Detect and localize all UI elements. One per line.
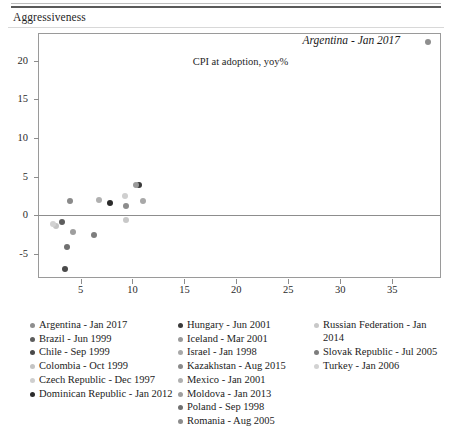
legend-item[interactable]: Hungary - Jun 2001 — [178, 318, 314, 331]
legend-marker-icon — [178, 364, 183, 369]
legend-item[interactable]: Colombia - Oct 1999 — [30, 359, 178, 372]
legend-item-label: Turkey - Jan 2006 — [323, 359, 399, 372]
scatter-point — [122, 193, 128, 199]
x-tick-label: 5 — [61, 285, 101, 296]
page-title: Aggressiveness — [13, 11, 86, 23]
legend-item-label: Slovak Republic - Jul 2005 — [323, 345, 437, 358]
legend-item-label: Argentina - Jan 2017 — [39, 318, 127, 331]
legend-item-label: Czech Republic - Dec 1997 — [39, 373, 155, 386]
legend-item-label: Mexico - Jan 2001 — [187, 373, 265, 386]
scatter-point — [59, 219, 65, 225]
chart-legend: Argentina - Jan 2017Brazil - Jun 1999Chi… — [30, 318, 448, 430]
legend-marker-icon — [30, 337, 35, 342]
legend-item-label: Poland - Sep 1998 — [187, 400, 264, 413]
legend-marker-icon — [314, 364, 319, 369]
x-tick-label: 35 — [372, 285, 412, 296]
legend-item-label: Iceland - Mar 2001 — [187, 332, 268, 345]
y-tick — [34, 99, 39, 100]
scatter-point — [91, 232, 97, 238]
scatter-point — [140, 198, 146, 204]
scatter-point — [62, 266, 68, 272]
legend-marker-icon — [178, 323, 183, 328]
legend-item[interactable]: Israel - Jan 1998 — [178, 345, 314, 358]
scatter-point — [107, 200, 113, 206]
legend-item-label: Moldova - Jan 2013 — [187, 387, 271, 400]
legend-item[interactable]: Czech Republic - Dec 1997 — [30, 373, 178, 386]
legend-marker-icon — [178, 419, 183, 424]
point-annotation-label: Argentina - Jan 2017 — [302, 34, 400, 46]
legend-item[interactable]: Turkey - Jan 2006 — [314, 359, 448, 372]
y-tick — [34, 254, 39, 255]
legend-item[interactable]: Chile - Sep 1999 — [30, 345, 178, 358]
legend-item[interactable]: Iceland - Mar 2001 — [178, 332, 314, 345]
scatter-point — [133, 182, 139, 188]
legend-column: Argentina - Jan 2017Brazil - Jun 1999Chi… — [30, 318, 178, 430]
legend-item-label: Hungary - Jun 2001 — [187, 318, 271, 331]
scatter-point — [96, 197, 102, 203]
legend-item[interactable]: Kazakhstan - Aug 2015 — [178, 359, 314, 372]
legend-marker-icon — [30, 364, 35, 369]
legend-marker-icon — [30, 323, 35, 328]
legend-marker-icon — [178, 392, 183, 397]
legend-item[interactable]: Argentina - Jan 2017 — [30, 318, 178, 331]
legend-marker-icon — [30, 392, 35, 397]
legend-item-label: Russian Federation - Jan 2014 — [323, 318, 448, 344]
scatter-point — [70, 229, 76, 235]
x-tick-label: 15 — [164, 285, 204, 296]
legend-marker-icon — [178, 378, 183, 383]
y-tick-label: -5 — [2, 249, 28, 260]
plot-area: -505101520 5101520253035 Argentina - Jan… — [38, 33, 441, 278]
legend-item-label: Brazil - Jun 1999 — [39, 332, 112, 345]
x-axis-title: CPI at adoption, yoy% — [39, 56, 442, 67]
y-tick-label: 5 — [2, 172, 28, 183]
legend-column: Russian Federation - Jan 2014Slovak Repu… — [314, 318, 448, 430]
y-tick-label: 0 — [2, 210, 28, 221]
scatter-point — [123, 203, 129, 209]
zero-reference-line — [39, 215, 440, 216]
top-rule — [11, 6, 441, 8]
legend-marker-icon — [178, 337, 183, 342]
legend-column: Hungary - Jun 2001Iceland - Mar 2001Isra… — [178, 318, 314, 430]
legend-item-label: Kazakhstan - Aug 2015 — [187, 359, 286, 372]
legend-item[interactable]: Romania - Aug 2005 — [178, 414, 314, 427]
legend-item[interactable]: Brazil - Jun 1999 — [30, 332, 178, 345]
scatter-point — [50, 221, 56, 227]
legend-marker-icon — [30, 350, 35, 355]
x-tick-label: 20 — [216, 285, 256, 296]
scatter-point — [64, 244, 70, 250]
legend-marker-icon — [30, 378, 35, 383]
y-tick-label: 20 — [2, 56, 28, 67]
legend-item[interactable]: Mexico - Jan 2001 — [178, 373, 314, 386]
scatter-point — [123, 217, 129, 223]
legend-item[interactable]: Slovak Republic - Jul 2005 — [314, 345, 448, 358]
legend-marker-icon — [178, 350, 183, 355]
y-tick — [34, 138, 39, 139]
x-tick-label: 25 — [268, 285, 308, 296]
chart-page: Aggressiveness -505101520 5101520253035 … — [0, 0, 452, 433]
legend-item-label: Romania - Aug 2005 — [187, 414, 275, 427]
y-tick — [34, 215, 39, 216]
legend-marker-icon — [178, 405, 183, 410]
top-rule-faint — [11, 3, 441, 4]
y-tick-label: 15 — [2, 94, 28, 105]
legend-marker-icon — [314, 323, 319, 328]
legend-item-label: Dominican Republic - Jan 2012 — [39, 387, 173, 400]
legend-item[interactable]: Poland - Sep 1998 — [178, 400, 314, 413]
legend-item[interactable]: Dominican Republic - Jan 2012 — [30, 387, 178, 400]
legend-item[interactable]: Russian Federation - Jan 2014 — [314, 318, 448, 344]
scatter-point — [67, 198, 73, 204]
x-tick-label: 10 — [112, 285, 152, 296]
legend-item-label: Chile - Sep 1999 — [39, 345, 110, 358]
legend-item-label: Colombia - Oct 1999 — [39, 359, 128, 372]
legend-marker-icon — [314, 350, 319, 355]
y-tick — [34, 177, 39, 178]
title-underline — [8, 27, 444, 28]
y-tick-label: 10 — [2, 133, 28, 144]
x-tick-label: 30 — [320, 285, 360, 296]
scatter-point — [425, 39, 431, 45]
legend-item[interactable]: Moldova - Jan 2013 — [178, 387, 314, 400]
legend-item-label: Israel - Jan 1998 — [187, 345, 257, 358]
